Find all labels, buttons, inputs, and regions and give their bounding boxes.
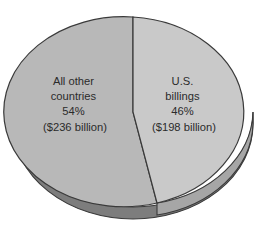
slice-label-all-other-countries-line2: countries: [51, 90, 97, 102]
slice-label-us-billings-line1: U.S.: [172, 75, 194, 87]
pie-chart-svg: All other countries 54% ($236 billion) U…: [0, 0, 262, 235]
slice-amount-all-other-countries: ($236 billion): [43, 121, 107, 133]
slice-label-all-other-countries-line1: All other: [53, 75, 94, 87]
pie-chart-figure: All other countries 54% ($236 billion) U…: [0, 0, 262, 235]
slice-percent-us-billings: 46%: [171, 105, 193, 117]
slice-label-us-billings-line2: billings: [165, 90, 200, 102]
slice-percent-all-other-countries: 54%: [62, 105, 84, 117]
slice-amount-us-billings: ($198 billion): [152, 121, 216, 133]
